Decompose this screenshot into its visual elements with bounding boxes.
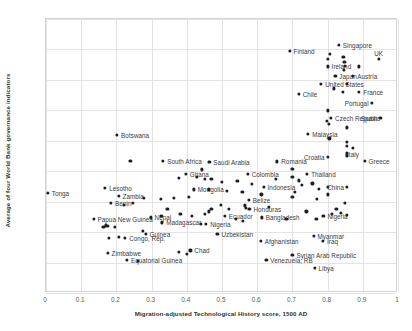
data-point [199,222,202,225]
data-point [335,207,338,210]
data-point [377,57,380,60]
data-point [332,87,335,90]
data-point [142,196,145,199]
data-point [330,116,333,119]
data-point-label: Croatia [304,154,325,161]
data-point [159,197,162,200]
gridline-horizontal [46,19,396,20]
data-point [190,214,193,217]
y-axis-title-text: Average of four World Bank governance in… [4,73,11,227]
data-point-label: Papua New Guinea [98,215,153,222]
x-axis-tick-label: 0.3 [131,296,171,303]
data-point [276,160,279,163]
data-point [344,201,347,204]
data-point [297,179,300,182]
y-axis-title: Average of four World Bank governance in… [0,0,14,300]
data-point [379,117,382,120]
data-point [241,190,244,193]
gridline-vertical [46,19,47,291]
data-point-label: Uzbekistan [221,230,253,237]
data-point-label: Lesotho [109,185,132,192]
data-point [210,207,213,210]
data-point [342,69,345,72]
data-point-label: Iraq [327,238,338,245]
data-point [358,65,361,68]
data-point-label: Saudi Arabia [213,159,249,166]
data-point [187,195,190,198]
data-point [291,176,294,179]
data-point [327,122,330,125]
data-point-label: Singapore [343,42,372,49]
data-point-label: Thailand [311,170,336,177]
gridline-vertical [81,19,82,291]
data-point [328,137,331,140]
data-point-label: Ecuador [229,213,253,220]
data-point [110,201,113,204]
data-point [210,178,213,181]
data-point-label: Belize [253,196,270,203]
data-point-label: Mongolia [198,186,224,193]
data-point [306,172,309,175]
data-point [195,175,198,178]
gridline-horizontal [46,49,396,50]
x-axis-title: Migration-adjusted Technological History… [45,310,397,317]
data-point-label: Ghana [190,170,209,177]
data-point [246,172,249,175]
data-point [311,182,314,185]
data-point [132,201,135,204]
data-point-label: Finland [294,47,315,54]
data-point [326,109,329,112]
data-point-label: Bangladesh [266,214,300,221]
data-point [346,144,349,147]
data-point [363,159,366,162]
gridline-vertical [152,19,153,291]
gridline-horizontal [46,293,396,294]
data-point [326,65,329,68]
data-point [92,217,95,220]
data-point [242,220,245,223]
gridline-vertical [363,19,364,291]
data-point [107,237,110,240]
data-point [370,101,373,104]
data-point [225,189,228,192]
data-point [322,215,325,218]
data-point-label: Nigeria [210,220,230,227]
data-point [305,210,308,213]
data-point [334,75,337,78]
x-axis-tick-label: 0.6 [236,296,276,303]
data-point-label: Botswana [121,131,149,138]
data-point-label: Malaysia [312,131,337,138]
data-point-label: Italy [347,151,359,158]
x-axis-tick-label: 0.4 [166,296,206,303]
data-point [328,52,331,55]
gridline-horizontal [46,110,396,111]
data-point [236,179,239,182]
data-point [291,167,294,170]
data-point [179,212,182,215]
data-point [260,216,263,219]
data-point [205,222,208,225]
data-point [172,196,175,199]
data-point [102,225,105,228]
data-point [216,232,219,235]
data-point-label: Madagascar [166,219,201,226]
gridline-vertical [292,19,293,291]
data-point [162,159,165,162]
data-point [192,188,195,191]
data-point-label: South Africa [167,157,202,164]
data-point [341,90,344,93]
data-point-label: Venezuela, RB [270,256,312,263]
scatter-chart: Average of four World Bank governance in… [0,0,412,331]
data-point-label: Indonesia [268,184,296,191]
x-axis-tick-label: 0.5 [201,296,241,303]
data-point [129,159,132,162]
data-point [274,178,277,181]
data-point [161,221,164,224]
data-point [166,207,169,210]
data-point [223,215,226,218]
data-point [262,185,265,188]
data-point-label: Portugal [345,100,369,107]
data-point [342,55,345,58]
data-point [326,156,329,159]
data-point [345,126,348,129]
